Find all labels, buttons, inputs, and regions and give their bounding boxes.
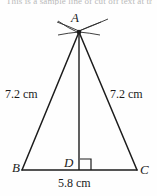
vertex-label-b: B [12, 161, 20, 174]
apex-point-marker [77, 30, 82, 35]
construction-arc-lower-right [79, 32, 100, 35]
measurement-label-left-side: 7.2 cm [5, 88, 38, 100]
segment-AB [22, 32, 79, 170]
vertex-label-d: D [64, 156, 73, 169]
vertex-label-a: A [71, 11, 79, 24]
geometry-figure: This is a sample line of cut off text at… [0, 0, 157, 196]
construction-arcs-group [57, 19, 108, 35]
vertex-label-c: C [140, 163, 149, 176]
construction-arc-lower-left [58, 32, 79, 35]
right-angle-mark [80, 159, 91, 170]
segment-AC [79, 32, 137, 170]
measurement-label-right-side: 7.2 cm [110, 88, 143, 100]
measurement-label-base: 5.8 cm [58, 177, 91, 189]
construction-arc-right-long [79, 19, 108, 31]
